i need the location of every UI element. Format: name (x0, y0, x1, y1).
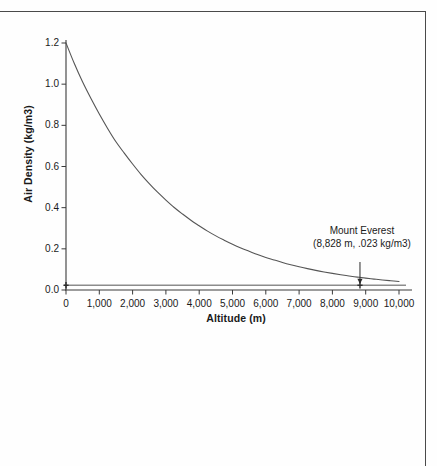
x-tick-label: 3,000 (153, 299, 178, 309)
x-tick-label: 4,000 (187, 299, 212, 309)
annotation-mount-everest: Mount Everest (8,828 m, .023 kg/m3) (313, 225, 411, 250)
x-tick-label: 2,000 (120, 299, 145, 309)
annotation-line-1: Mount Everest (313, 225, 411, 238)
x-tick-label: 0 (63, 299, 69, 309)
annotation-arrow-everest (357, 262, 362, 284)
x-tick-label: 5,000 (220, 299, 245, 309)
y-tick-label: 0.2 (25, 244, 59, 254)
plot-area (0, 12, 425, 332)
y-tick-label: 0.8 (25, 120, 59, 130)
y-tick-label: 0.4 (25, 203, 59, 213)
x-axis-title: Altitude (m) (66, 312, 406, 324)
y-tick-label: 0.6 (25, 162, 59, 172)
annotation-line-2: (8,828 m, .023 kg/m3) (313, 238, 411, 251)
x-tick-label: 6,000 (253, 299, 278, 309)
y-axis-title: Air Density (kg/m3) (22, 89, 34, 219)
y-tick-label: 0.0 (25, 285, 59, 295)
x-tick-label: 7,000 (287, 299, 312, 309)
x-tick-label: 1,000 (87, 299, 112, 309)
x-tick-label: 8,000 (320, 299, 345, 309)
y-tick-label: 1.2 (25, 38, 59, 48)
x-tick-label: 9,000 (353, 299, 378, 309)
y-tick-label: 1.0 (25, 79, 59, 89)
x-tick-label: 10,000 (384, 299, 415, 309)
air-density-chart-figure: Air Density (kg/m3) Altitude (m) 0.00.20… (0, 12, 425, 332)
scanned-page: Air Density (kg/m3) Altitude (m) 0.00.20… (0, 0, 437, 466)
page-border-right (425, 11, 426, 466)
axis-ticks (62, 43, 400, 295)
